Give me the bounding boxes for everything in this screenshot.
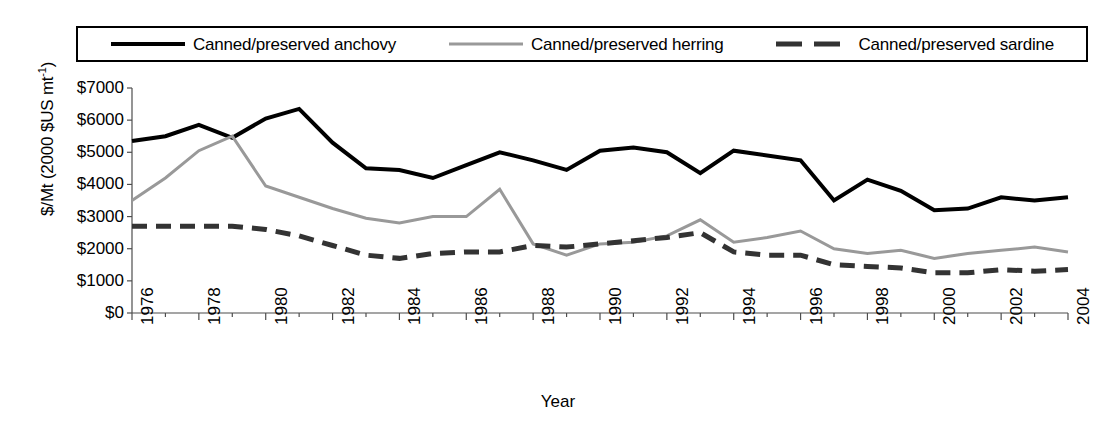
x-tick-label: 2004 (1075, 287, 1092, 325)
x-tick-label: 1994 (741, 287, 758, 325)
x-tick-label: 1986 (473, 287, 490, 325)
x-tick-label: 1984 (406, 287, 423, 325)
x-tick-label: 2002 (1008, 287, 1025, 325)
x-tick-label: 2000 (941, 287, 958, 325)
x-tick-label: 1988 (540, 287, 557, 325)
x-axis-title: Year (0, 392, 1116, 412)
x-tick-label: 1980 (273, 287, 290, 325)
x-tick-label: 1990 (607, 287, 624, 325)
x-tick-label: 1996 (808, 287, 825, 325)
x-tick-label: 1998 (874, 287, 891, 325)
x-axis-tick-labels: 1976197819801982198419861988199019921994… (0, 0, 1116, 429)
x-tick-label: 1992 (674, 287, 691, 325)
x-tick-label: 1976 (139, 287, 156, 325)
x-tick-label: 1978 (206, 287, 223, 325)
line-chart: Canned/preserved anchovy Canned/preserve… (0, 0, 1116, 429)
x-tick-label: 1982 (340, 287, 357, 325)
